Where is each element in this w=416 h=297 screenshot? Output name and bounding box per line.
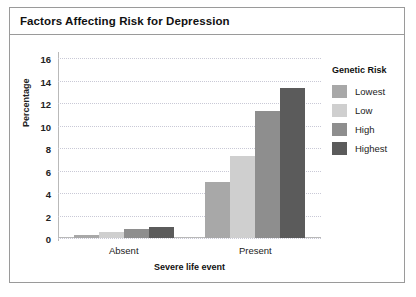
x-axis-tick-label: Absent	[58, 245, 190, 256]
figure-panel: Factors Affecting Risk for Depression Pe…	[9, 7, 405, 283]
x-axis-tick-label: Present	[190, 245, 322, 256]
legend-swatch	[332, 123, 347, 136]
y-axis-tick-label: 8	[46, 144, 51, 155]
y-axis-tick-label: 14	[40, 76, 51, 87]
legend-item: Lowest	[332, 82, 404, 101]
y-axis-tick-label: 10	[40, 121, 51, 132]
y-axis-tick-label: 6	[46, 166, 51, 177]
figure-title-bar: Factors Affecting Risk for Depression	[10, 8, 404, 35]
y-axis-tick-label: 2	[46, 211, 51, 222]
bars	[58, 58, 190, 238]
legend-label: Lowest	[355, 86, 385, 97]
plot-area: 0246810121416 AbsentPresent	[58, 58, 321, 238]
legend-item: Low	[332, 101, 404, 120]
bar	[230, 156, 255, 238]
bars	[190, 58, 322, 238]
bar	[124, 229, 149, 238]
legend-swatch	[332, 142, 347, 155]
legend-item: Highest	[332, 139, 404, 158]
bar-group: Absent	[58, 58, 190, 238]
y-axis-label: Percentage	[21, 78, 31, 127]
page-title: Factors Affecting Risk for Depression	[10, 15, 230, 27]
legend-item: High	[332, 120, 404, 139]
legend-label: High	[355, 124, 375, 135]
legend-entries: LowestLowHighHighest	[332, 82, 404, 158]
y-axis-tick-label: 4	[46, 189, 51, 200]
bar	[280, 88, 305, 238]
bar	[149, 227, 174, 238]
bar	[74, 235, 99, 238]
legend-title: Genetic Risk	[332, 65, 404, 75]
bar	[205, 182, 230, 238]
legend-swatch	[332, 104, 347, 117]
y-axis-tick-label: 16	[40, 54, 51, 65]
gridline: 0	[58, 238, 321, 240]
bar	[255, 111, 280, 238]
bar-group: Present	[190, 58, 322, 238]
legend-label: Low	[355, 105, 372, 116]
bar	[99, 232, 124, 238]
bar-groups: AbsentPresent	[58, 58, 321, 238]
x-axis-label: Severe life event	[58, 262, 321, 272]
legend-swatch	[332, 85, 347, 98]
chart-area: Percentage 0246810121416 AbsentPresent S…	[10, 35, 404, 282]
y-axis-tick-label: 12	[40, 99, 51, 110]
legend-label: Highest	[355, 143, 387, 154]
legend: Genetic Risk LowestLowHighHighest	[332, 65, 404, 158]
y-axis-tick-label: 0	[46, 234, 51, 245]
